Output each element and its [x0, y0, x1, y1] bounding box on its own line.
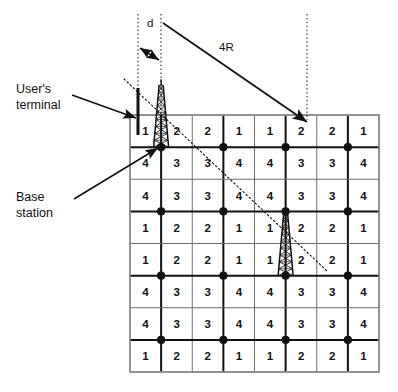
cell-number: 2 — [298, 125, 304, 137]
distance-d-arrow — [140, 48, 159, 60]
cell-number: 4 — [142, 190, 149, 202]
cell-number: 3 — [298, 190, 304, 202]
cell-number: 2 — [205, 125, 211, 137]
cell-number: 2 — [329, 350, 335, 362]
cell-number: 2 — [173, 350, 179, 362]
cell-number: 1 — [360, 222, 367, 234]
cell-number: 3 — [329, 318, 335, 330]
base-station-label: Basestation — [16, 189, 53, 221]
base-station-dot — [344, 207, 352, 215]
cell-number: 3 — [205, 190, 211, 202]
base-station-dot — [157, 272, 165, 280]
distance-d-label: d — [147, 16, 153, 31]
base-station-dot — [282, 143, 290, 151]
cell-number: 1 — [236, 222, 243, 234]
reuse-distance-4r-label: 4R — [219, 40, 234, 55]
cell-number: 3 — [298, 286, 304, 298]
cell-number: 2 — [205, 254, 211, 266]
base-station-dot — [282, 336, 290, 344]
cell-number: 4 — [142, 286, 149, 298]
cell-number: 3 — [329, 190, 335, 202]
users-terminal-leader — [72, 95, 136, 118]
cell-number: 3 — [173, 157, 179, 169]
cell-number: 3 — [173, 286, 179, 298]
cell-number: 1 — [142, 350, 149, 362]
base-station-dot — [157, 336, 165, 344]
cell-number: 3 — [329, 286, 335, 298]
base-station-label-line2: station — [16, 206, 53, 220]
cell-number: 2 — [298, 222, 304, 234]
cell-number: 1 — [267, 125, 274, 137]
cell-number: 2 — [329, 125, 335, 137]
cluster-boundary-line — [124, 79, 327, 271]
cell-number: 4 — [360, 190, 367, 202]
base-station-dot — [157, 207, 165, 215]
cell-number: 3 — [205, 286, 211, 298]
cell-number: 2 — [205, 350, 211, 362]
cell-number: 4 — [267, 157, 274, 169]
cell-number: 2 — [173, 254, 179, 266]
cell-number: 3 — [298, 157, 304, 169]
cell-number: 1 — [142, 222, 149, 234]
cell-number: 2 — [329, 254, 335, 266]
cell-number: 4 — [236, 286, 243, 298]
cell-number: 4 — [236, 157, 243, 169]
cell-number: 4 — [360, 318, 367, 330]
cell-number: 1 — [142, 125, 149, 137]
base-station-dot — [219, 143, 227, 151]
cell-number: 1 — [236, 125, 243, 137]
base-station-dot — [344, 272, 352, 280]
base-station-dot — [282, 272, 290, 280]
diagram-svg: 1221122143344334433443341221122112211221… — [0, 0, 398, 392]
base-station-dot — [344, 336, 352, 344]
base-station-dot — [219, 336, 227, 344]
cell-number: 4 — [142, 318, 149, 330]
cell-number: 1 — [236, 350, 243, 362]
base-station-dot — [157, 143, 165, 151]
cell-number: 2 — [173, 222, 179, 234]
cell-number: 3 — [205, 157, 211, 169]
cell-number: 1 — [267, 350, 274, 362]
cell-number: 2 — [173, 125, 179, 137]
cell-number: 1 — [267, 222, 274, 234]
cell-number: 4 — [267, 286, 274, 298]
cell-number: 2 — [298, 350, 304, 362]
figure-canvas: 1221122143344334433443341221122112211221… — [0, 0, 398, 392]
cell-number: 4 — [360, 157, 367, 169]
grid-lines — [130, 115, 379, 372]
cell-number: 4 — [236, 190, 243, 202]
base-station-dot — [219, 272, 227, 280]
cell-number: 3 — [329, 157, 335, 169]
cell-number: 1 — [267, 254, 274, 266]
cell-number: 3 — [298, 318, 304, 330]
cell-number: 3 — [173, 190, 179, 202]
annotation-leaders — [72, 14, 307, 199]
cell-number: 1 — [360, 350, 367, 362]
cell-number: 1 — [142, 254, 149, 266]
cell-number: 2 — [205, 222, 211, 234]
cell-number: 1 — [360, 125, 367, 137]
cell-number: 4 — [267, 318, 274, 330]
cell-number: 2 — [298, 254, 304, 266]
base-station-dot — [344, 143, 352, 151]
cell-number: 4 — [142, 157, 149, 169]
users-terminal-label-line2: terminal — [16, 98, 60, 112]
reuse-distance-arrow — [163, 23, 307, 122]
users-terminal-label: User'sterminal — [16, 81, 60, 113]
cell-number: 1 — [236, 254, 243, 266]
base-station-dot — [219, 207, 227, 215]
cell-number: 3 — [205, 318, 211, 330]
base-station-label-line1: Base — [16, 190, 45, 204]
cell-number: 3 — [173, 318, 179, 330]
cell-number: 1 — [360, 254, 367, 266]
cell-number: 4 — [360, 286, 367, 298]
cell-number: 2 — [329, 222, 335, 234]
cell-number: 4 — [236, 318, 243, 330]
cell-number: 4 — [267, 190, 274, 202]
cluster-boundary-dotted-line — [124, 79, 327, 271]
users-terminal-label-line1: User's — [16, 82, 51, 96]
